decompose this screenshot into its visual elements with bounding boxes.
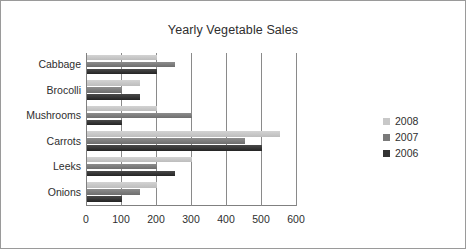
bar-2007	[87, 164, 157, 170]
legend-label: 2006	[395, 147, 418, 159]
bar-2006	[87, 120, 122, 126]
bar-2007	[87, 138, 245, 144]
bar-2006	[87, 171, 175, 177]
legend-item-2006: 2006	[383, 145, 418, 161]
bar-2008	[87, 80, 140, 86]
category-label: Onions	[48, 186, 81, 198]
x-tick-label: 400	[217, 213, 235, 225]
x-tick-label: 200	[147, 213, 165, 225]
bar-group: Carrots	[87, 130, 296, 156]
bar-group: Onions	[87, 181, 296, 207]
category-label: Cabbage	[38, 58, 81, 70]
bar-2006	[87, 196, 122, 202]
bar-2007	[87, 62, 175, 68]
x-tick-label: 600	[287, 213, 305, 225]
legend-label: 2008	[395, 115, 418, 127]
category-label: Brocolli	[47, 84, 81, 96]
category-label: Leeks	[53, 160, 81, 172]
bar-2008	[87, 55, 157, 61]
bar-2007	[87, 189, 140, 195]
legend-swatch-icon	[383, 134, 390, 141]
category-label: Carrots	[47, 135, 81, 147]
bar-2006	[87, 94, 140, 100]
chart-container: Yearly Vegetable Sales CabbageBrocolliMu…	[0, 0, 466, 249]
bar-group: Leeks	[87, 155, 296, 181]
chart-title: Yearly Vegetable Sales	[1, 23, 465, 37]
legend-label: 2007	[395, 131, 418, 143]
x-tick-label: 500	[252, 213, 270, 225]
bar-group: Brocolli	[87, 79, 296, 105]
bar-2008	[87, 157, 192, 163]
bar-2008	[87, 131, 280, 137]
category-label: Mushrooms	[26, 109, 81, 121]
bar-2006	[87, 145, 262, 151]
legend-swatch-icon	[383, 118, 390, 125]
chart-legend: 200820072006	[383, 113, 418, 161]
bar-2008	[87, 106, 157, 112]
plot-area: CabbageBrocolliMushroomsCarrotsLeeksOnio…	[86, 53, 296, 206]
bar-group: Mushrooms	[87, 104, 296, 130]
legend-item-2008: 2008	[383, 113, 418, 129]
x-tick-label: 300	[182, 213, 200, 225]
bar-group: Cabbage	[87, 53, 296, 79]
x-tick-label: 100	[112, 213, 130, 225]
bar-2007	[87, 113, 192, 119]
legend-swatch-icon	[383, 150, 390, 157]
bar-2006	[87, 69, 157, 75]
bar-2008	[87, 182, 157, 188]
x-tick-label: 0	[83, 213, 89, 225]
legend-item-2007: 2007	[383, 129, 418, 145]
gridline-600	[296, 53, 297, 206]
bar-2007	[87, 87, 122, 93]
